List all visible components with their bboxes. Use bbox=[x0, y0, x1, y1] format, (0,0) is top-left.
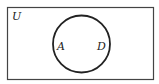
set-label-a: A bbox=[56, 40, 65, 53]
set-label-d: D bbox=[96, 40, 106, 53]
universe-label: U bbox=[12, 10, 22, 23]
venn-diagram: U A D bbox=[0, 0, 159, 84]
universe-rectangle bbox=[8, 8, 154, 80]
